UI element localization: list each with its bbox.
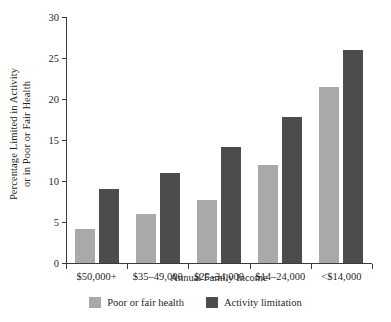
legend-label: Poor or fair health [107,297,184,308]
x-tick [66,264,67,269]
bar-activity-limitation [160,173,180,263]
plot-area: 051015202530 $50,000+$35–49,000$25–34,00… [66,17,372,264]
y-tick [62,222,67,223]
x-tick [127,264,128,269]
y-tick-label: 0 [54,258,59,269]
y-tick [62,181,67,182]
x-axis-title: Annual Family Income [66,272,372,283]
y-tick [62,140,67,141]
x-axis-line [66,263,372,264]
bar-poor-or-fair-health [258,165,278,263]
bar-activity-limitation [99,189,119,263]
bar-chart: Percentage Limited in Activity or in Poo… [0,0,391,322]
bar-poor-or-fair-health [136,214,156,263]
x-tick [372,264,373,269]
bar-activity-limitation [221,147,241,263]
y-tick [62,58,67,59]
bar-activity-limitation [343,50,363,263]
y-axis-title: Percentage Limited in Activity or in Poo… [0,0,40,268]
bar-poor-or-fair-health [75,229,95,263]
x-tick [250,264,251,269]
legend-item: Activity limitation [206,297,302,308]
legend-swatch-icon [89,297,101,308]
y-tick-label: 30 [49,12,60,23]
chart-legend: Poor or fair healthActivity limitation [0,297,391,308]
y-tick [62,17,67,18]
legend-item: Poor or fair health [89,297,184,308]
bar-poor-or-fair-health [197,200,217,263]
y-tick-label: 20 [49,94,60,105]
y-axis-title-line1: Percentage Limited in Activity [7,68,20,200]
bar-activity-limitation [282,117,302,263]
legend-label: Activity limitation [224,297,302,308]
y-tick-label: 10 [49,176,60,187]
y-tick-label: 25 [49,53,60,64]
x-tick [311,264,312,269]
y-tick-label: 15 [49,135,60,146]
x-tick [188,264,189,269]
bar-poor-or-fair-health [319,87,339,263]
y-tick-label: 5 [54,217,59,228]
y-axis-title-line2: or in Poor or Fair Health [20,68,33,200]
y-tick [62,99,67,100]
legend-swatch-icon [206,297,218,308]
